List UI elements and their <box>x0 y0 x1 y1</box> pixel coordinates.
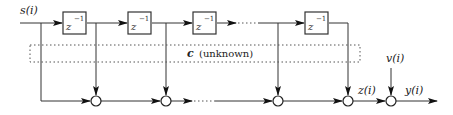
delay-box-3: z −1 <box>193 12 216 34</box>
svg-text:−1: −1 <box>74 15 84 23</box>
intermediate-label: z(i) <box>357 84 376 97</box>
delay-box-1: z −1 <box>63 12 86 34</box>
summer-1 <box>91 96 101 106</box>
noise-summer <box>386 96 396 106</box>
svg-text:z: z <box>307 21 314 32</box>
svg-text:−1: −1 <box>139 15 149 23</box>
svg-text:−1: −1 <box>204 15 214 23</box>
output-label: y(i) <box>404 84 423 97</box>
svg-text:z: z <box>195 21 202 32</box>
svg-text:−1: −1 <box>316 15 326 23</box>
summer-3 <box>273 96 283 106</box>
input-label: s(i) <box>20 4 38 17</box>
svg-text:z: z <box>130 21 137 32</box>
delay-box-4: z −1 <box>305 12 328 34</box>
noise-label: v(i) <box>386 52 404 65</box>
coefficients-box: c (unknown) <box>30 45 360 62</box>
coefficients-unknown-text: (unknown) <box>199 48 253 59</box>
coefficients-symbol: c <box>187 47 194 60</box>
summer-4 <box>343 96 353 106</box>
svg-text:z: z <box>65 21 72 32</box>
delay-box-2: z −1 <box>128 12 151 34</box>
summer-2 <box>161 96 171 106</box>
fir-channel-diagram: s(i) z −1 z −1 z −1 z −1 <box>0 0 453 115</box>
